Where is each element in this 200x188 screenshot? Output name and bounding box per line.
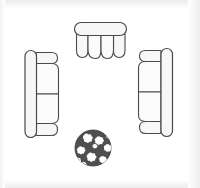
sofa-right-cushion-top <box>139 62 162 93</box>
sofa-top-backrest <box>75 23 127 36</box>
sofa-right-arm-top <box>140 51 162 62</box>
sofa-left-backrest <box>25 51 37 138</box>
sofa-right[interactable] <box>139 49 173 137</box>
furniture-layout-canvas: Living room furniture layout Sofa (top, … <box>0 0 200 188</box>
sofa-left-arm-bottom <box>36 124 58 136</box>
sofa-top[interactable] <box>75 23 127 59</box>
sofa-top-cushion-right <box>101 34 114 59</box>
sofa-left[interactable] <box>25 51 59 138</box>
sofa-left-cushion-bottom <box>36 94 59 124</box>
sofa-right-backrest <box>161 49 173 137</box>
sofa-top-cushion-left <box>88 34 101 59</box>
floor-plan-drawing <box>0 0 200 188</box>
sofa-right-arm-bottom <box>140 122 162 134</box>
sofa-left-cushion-top <box>36 64 59 95</box>
sofa-right-cushion-bottom <box>139 92 162 122</box>
rug-round[interactable] <box>74 130 113 167</box>
sofa-top-arm-left <box>77 34 89 58</box>
sofa-top-arm-right <box>114 34 126 58</box>
sofa-left-arm-top <box>36 53 58 64</box>
